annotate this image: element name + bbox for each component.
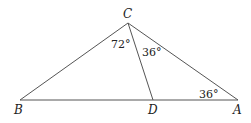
angle-bcd: 72° — [111, 38, 131, 51]
segment-bc — [20, 23, 128, 100]
label-b: B — [13, 103, 23, 117]
angle-cad: 36° — [199, 88, 219, 101]
angle-dca: 36° — [142, 46, 162, 59]
label-d: D — [147, 103, 158, 117]
label-a: A — [232, 103, 242, 117]
label-c: C — [123, 7, 132, 21]
segment-cd — [128, 23, 153, 100]
triangle-diagram: C B D A 72° 36° 36° — [0, 0, 251, 123]
segment-ca — [128, 23, 238, 100]
